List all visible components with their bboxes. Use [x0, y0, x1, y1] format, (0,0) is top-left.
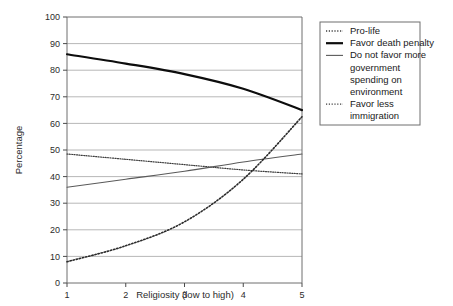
y-tick-label: 60 — [50, 119, 60, 129]
legend-label: government — [350, 62, 401, 73]
series-line — [67, 117, 302, 262]
gridlines — [67, 44, 302, 257]
x-tick-label: 4 — [241, 290, 246, 300]
y-tick-label: 100 — [45, 12, 60, 22]
y-tick-label: 80 — [50, 65, 60, 75]
legend-label: Pro-life — [350, 25, 380, 36]
y-tick-label: 30 — [50, 198, 60, 208]
series-line — [67, 54, 302, 110]
legend-label: environment — [350, 86, 403, 97]
x-tick-label: 5 — [299, 290, 304, 300]
data-series-group — [67, 54, 302, 261]
legend-label: Do not favor more — [350, 49, 426, 60]
religiosity-attitudes-line-chart: 0102030405060708090100 12345 Percentage … — [0, 0, 453, 306]
y-tick-label: 20 — [50, 225, 60, 235]
y-axis-ticks: 0102030405060708090100 — [45, 12, 67, 288]
legend-label: Favor death penalty — [350, 37, 434, 48]
x-tick-label: 1 — [64, 290, 69, 300]
y-axis-title: Percentage — [13, 126, 24, 175]
y-tick-label: 70 — [50, 92, 60, 102]
x-tick-label: 2 — [123, 290, 128, 300]
y-tick-label: 40 — [50, 172, 60, 182]
y-tick-label: 0 — [55, 278, 60, 288]
x-axis-title: Religiosity (low to high) — [136, 289, 234, 300]
y-tick-label: 10 — [50, 252, 60, 262]
legend-label: Favor less — [350, 98, 394, 109]
series-line — [67, 154, 302, 187]
legend-label: spending on — [350, 74, 402, 85]
legend-label: immigration — [350, 110, 399, 121]
y-tick-label: 50 — [50, 145, 60, 155]
y-tick-label: 90 — [50, 39, 60, 49]
chart-figure: 0102030405060708090100 12345 Percentage … — [0, 0, 453, 306]
